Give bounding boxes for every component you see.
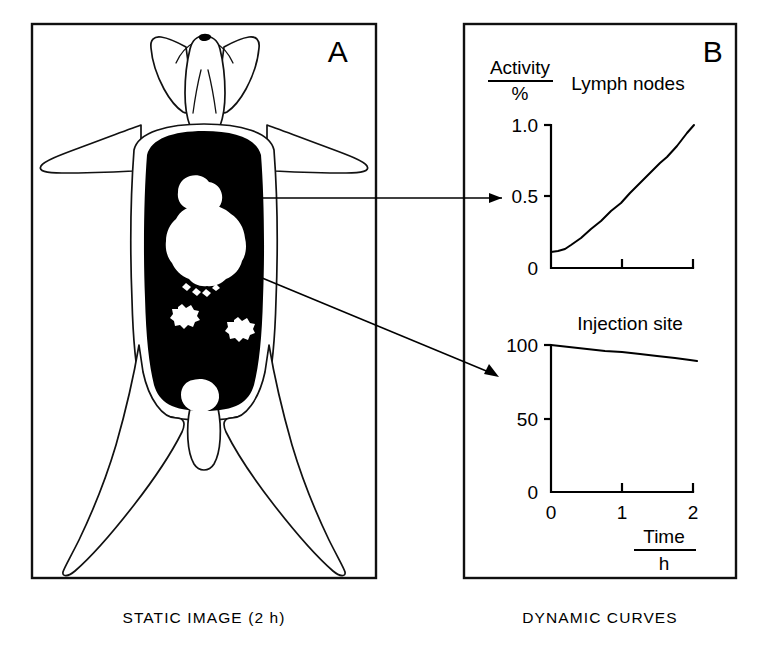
time-axis-numerator: Time (643, 526, 685, 547)
panel-b-letter: B (703, 35, 724, 68)
injection-ylabel-0: 0 (527, 482, 538, 503)
injection-ylabel-50: 50 (517, 409, 538, 430)
activity-axis-denominator: % (512, 83, 529, 104)
head-outline (185, 36, 225, 126)
lymph-axes (551, 125, 693, 268)
injection-site-data-curve (551, 345, 697, 361)
injection-site-chart-title: Injection site (577, 313, 683, 334)
chart-injection-site: Injection site 100 50 0 0 1 2 Time h (506, 313, 698, 574)
injection-xlabel-1: 1 (617, 502, 628, 523)
lymph-ylabel-05: 0.5 (512, 186, 538, 207)
injection-xlabel-0: 0 (546, 502, 557, 523)
injection-xlabel-2: 2 (688, 502, 699, 523)
chart-lymph-nodes: Activity % Lymph nodes 1.0 0.5 0 (488, 57, 694, 279)
figure-canvas: A B Activity % Lymph nodes (0, 0, 767, 649)
caption-dynamic-curves: DYNAMIC CURVES (522, 609, 678, 626)
lymph-nodes-chart-title: Lymph nodes (571, 73, 684, 94)
lymph-ylabel-0: 0 (527, 258, 538, 279)
lymph-ylabel-1: 1.0 (512, 115, 538, 136)
figure-root: A B Activity % Lymph nodes (0, 0, 767, 649)
panel-a-letter: A (328, 35, 349, 68)
lymph-nodes-data-curve (551, 125, 694, 252)
tail-outline (188, 408, 221, 470)
activity-axis-numerator: Activity (490, 57, 551, 78)
hotspot-inguinal-node (181, 379, 219, 412)
left-ear-outline (151, 37, 190, 113)
rabbit-outline-group (40, 34, 367, 576)
right-foreleg-outline (267, 125, 368, 173)
injection-axes (551, 345, 693, 492)
injection-ylabel-100: 100 (506, 335, 538, 356)
right-ear-outline (220, 37, 259, 113)
caption-static-image: STATIC IMAGE (2 h) (122, 609, 285, 626)
time-axis-denominator: h (659, 553, 670, 574)
left-foreleg-outline (40, 125, 141, 173)
arrow-to-injection-site-curve (243, 270, 499, 377)
panel-b-frame (464, 24, 736, 578)
